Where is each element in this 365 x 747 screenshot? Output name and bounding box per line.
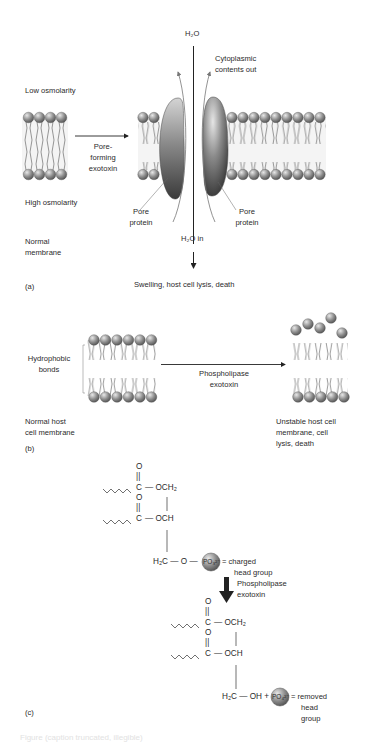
cytoplasmic-label-1: Cytoplasmic <box>215 53 256 64</box>
unstable-label-2: membrane, cell <box>276 427 328 438</box>
removed-head-label-2: head <box>301 702 318 713</box>
unstable-label-1: Unstable host cell <box>276 416 336 427</box>
po4-label: PO₄²⁻ <box>272 692 290 702</box>
hydrophobic-label-1: Hydrophobic <box>20 353 78 364</box>
normal-host-label-1: Normal host <box>25 416 66 427</box>
pore-forming-label-2: forming <box>80 152 126 163</box>
normal-host-label-2: cell membrane <box>25 427 75 438</box>
carbonyl-o-4: O <box>205 628 211 638</box>
normal-membrane-label-1: Normal <box>25 236 49 247</box>
figure-caption-faint: Figure (caption truncated, illegible) <box>20 733 143 742</box>
carbonyl-o-2: O <box>136 493 142 503</box>
double-bond-4: || <box>205 638 209 648</box>
po3-label: PO₃²⁻ <box>203 557 221 567</box>
pore-protein-right-2: protein <box>230 217 264 228</box>
och-group-after: — OCH <box>214 649 243 659</box>
phospholipase-c-label-1: Phospholipase <box>237 578 287 589</box>
cytoplasmic-label-2: contents out <box>215 64 256 75</box>
high-osmolarity-label: High osmolarity <box>25 197 77 208</box>
pore-protein-left <box>160 98 185 199</box>
swelling-outcome-label: Swelling, host cell lysis, death <box>134 279 234 290</box>
pore-protein-right <box>203 97 228 196</box>
pore-protein-left-1: Pore <box>124 206 158 217</box>
pore-forming-label-1: Pore- <box>80 141 126 152</box>
down-arrow-bold <box>219 577 234 603</box>
och-group: — OCH <box>145 514 174 524</box>
unstable-host-membrane <box>291 313 350 403</box>
carbon-1: C <box>136 483 142 493</box>
h2o-top-label: H₂O <box>185 28 199 39</box>
h2o-in-label: H₂O in <box>181 233 203 244</box>
h2c-oh-group: H₂C — OH + <box>222 692 269 702</box>
panel-a-label: (a) <box>25 281 34 292</box>
charged-head-label-2: head group <box>234 567 272 578</box>
pore-protein-right-1: Pore <box>230 206 264 217</box>
carbonyl-o-3: O <box>205 597 211 607</box>
removed-head-label-1: = removed <box>291 691 327 702</box>
och2-group: — OCH₂ <box>145 483 177 493</box>
normal-membrane-bilayer <box>22 112 68 180</box>
charged-head-label-1: = charged <box>222 556 256 567</box>
carbon-3: C <box>205 618 211 628</box>
normal-membrane-label-2: membrane <box>25 247 61 258</box>
hydrophobic-label-2: bonds <box>20 364 78 375</box>
removed-head-label-3: group <box>301 713 320 724</box>
och2-group-after: — OCH₂ <box>214 618 246 628</box>
panel-c-label: (c) <box>25 707 34 718</box>
porated-membrane <box>138 97 326 199</box>
normal-host-membrane <box>83 335 157 403</box>
pore-protein-left-2: protein <box>124 217 158 228</box>
phospholipase-c-label-2: exotoxin <box>237 589 265 600</box>
unstable-label-3: lysis, death <box>276 438 314 449</box>
pore-forming-label-3: exotoxin <box>80 163 126 174</box>
phospholipase-label-1: Phospholipase <box>180 368 268 379</box>
double-bond-1: || <box>136 472 140 482</box>
double-bond-2: || <box>136 503 140 513</box>
carbon-2: C <box>136 514 142 524</box>
h2c-o-group: H₂C — O — <box>153 557 198 567</box>
panel-b-label: (b) <box>25 443 34 454</box>
hydrophobic-bracket <box>83 345 85 393</box>
carbon-4: C <box>205 649 211 659</box>
carbonyl-o-1: O <box>136 462 142 472</box>
double-bond-3: || <box>205 607 209 617</box>
phospholipase-label-2: exotoxin <box>180 379 268 390</box>
low-osmolarity-label: Low osmolarity <box>25 85 76 96</box>
